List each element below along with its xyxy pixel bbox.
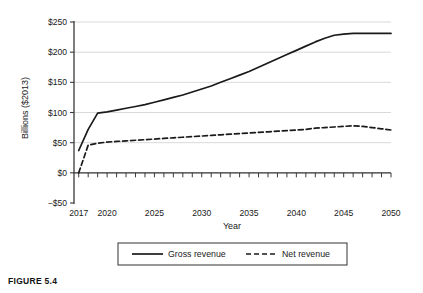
y-tick-label--50: −$50: [48, 198, 68, 208]
y-tick-label-100: $100: [48, 108, 67, 118]
x-tick-label-2025: 2025: [145, 208, 164, 218]
x-tick-label-2017: 2017: [69, 208, 88, 218]
x-axis-title: Year: [223, 221, 241, 231]
chart-legend: Gross revenueNet revenue: [118, 243, 347, 265]
x-tick-label-2030: 2030: [192, 208, 211, 218]
gridline-group: [74, 22, 391, 173]
x-tick-label-2035: 2035: [239, 208, 258, 218]
x-tick-marks: [79, 173, 391, 178]
x-tick-label-2045: 2045: [334, 208, 353, 218]
y-tick-labels: −$50$0$50$100$150$200$250: [48, 17, 68, 208]
data-series-group: [79, 33, 391, 172]
series-line-net-revenue: [79, 126, 391, 173]
figure-container: −$50$0$50$100$150$200$250 20172020202520…: [0, 0, 423, 293]
legend-label-net-revenue: Net revenue: [282, 249, 330, 259]
y-tick-label-150: $150: [48, 77, 67, 87]
chart-plot-area: −$50$0$50$100$150$200$250 20172020202520…: [0, 0, 423, 272]
y-tick-label-50: $50: [53, 138, 68, 148]
x-tick-label-2050: 2050: [381, 208, 400, 218]
x-tick-label-2020: 2020: [98, 208, 117, 218]
y-axis-title: Billions ($2013): [20, 77, 30, 139]
line-chart: −$50$0$50$100$150$200$250 20172020202520…: [0, 0, 423, 272]
y-tick-label-250: $250: [48, 17, 67, 27]
series-line-gross-revenue: [79, 33, 391, 150]
legend-label-gross-revenue: Gross revenue: [168, 249, 226, 259]
figure-caption: FIGURE 5.4: [8, 276, 57, 286]
y-tick-label-0: $0: [57, 168, 67, 178]
x-tick-labels: 20172020202520302035204020452050: [69, 208, 401, 218]
x-tick-label-2040: 2040: [287, 208, 306, 218]
y-tick-label-200: $200: [48, 47, 67, 57]
